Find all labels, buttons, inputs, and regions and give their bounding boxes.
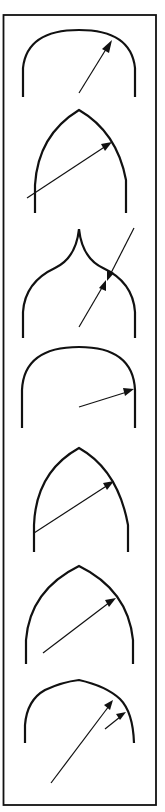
arch-panel-3 xyxy=(23,228,135,338)
arrowhead-icon xyxy=(105,598,116,607)
arch-panel-4 xyxy=(22,347,135,428)
radius-arrow-2 xyxy=(27,146,106,198)
arch-outline-1 xyxy=(23,30,135,97)
arrowhead-icon xyxy=(103,481,114,490)
arch-outline-2 xyxy=(35,110,126,213)
radius-arrow-6 xyxy=(43,602,110,653)
arch-outline-5 xyxy=(34,448,128,552)
arch-panel-2 xyxy=(27,110,126,213)
arrowhead-icon xyxy=(101,142,112,151)
arrowhead-icon xyxy=(99,280,106,291)
radius-arrow-5 xyxy=(34,485,108,533)
arrowhead-icon xyxy=(107,270,114,281)
radius-arrow-3b xyxy=(79,286,103,327)
arrowhead-icon xyxy=(102,40,112,53)
radius-arrow-7a xyxy=(51,706,109,783)
arrowhead-icon xyxy=(104,700,113,710)
outer-frame xyxy=(4,15,157,805)
radius-arrow-7b xyxy=(105,717,120,729)
arch-panel-6 xyxy=(26,566,133,664)
radius-arrow-4 xyxy=(79,392,127,407)
arch-outline-7 xyxy=(25,680,134,743)
arch-outline-6 xyxy=(26,566,133,664)
arch-outline-3 xyxy=(23,229,135,338)
arch-types-diagram xyxy=(0,0,165,812)
arch-panel-7 xyxy=(25,680,134,783)
arch-panel-1 xyxy=(23,30,135,97)
arrowhead-icon xyxy=(123,388,134,396)
radius-arrow-1 xyxy=(79,46,108,93)
arch-panel-5 xyxy=(34,448,128,552)
radius-arrow-3a xyxy=(110,228,134,275)
arch-outline-4 xyxy=(22,347,135,428)
